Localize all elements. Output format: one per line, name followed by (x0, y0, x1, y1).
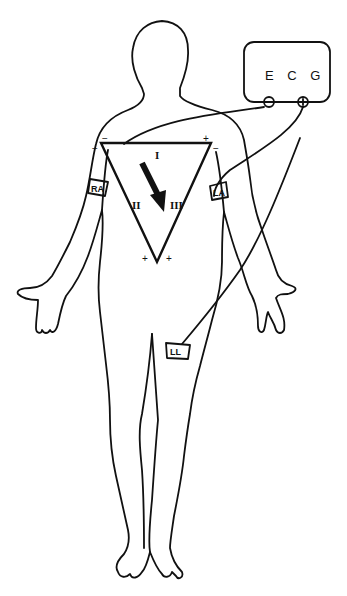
svg-text:RA: RA (91, 184, 104, 194)
svg-text:LL: LL (170, 347, 181, 357)
lead-ii-label: II (132, 199, 141, 211)
cardiac-axis-arrow-icon (142, 163, 166, 212)
electrode-la: LA (210, 182, 228, 200)
sign-bottom-right: + (166, 253, 172, 264)
ecg-machine: E C G (244, 42, 330, 107)
electrode-ll: LL (166, 343, 190, 359)
sign-top-right-b: − (213, 143, 219, 154)
ecg-diagram: E C G I II III − − + − + + RA LA LL (0, 0, 347, 596)
svg-text:LA: LA (213, 188, 225, 198)
sign-top-left-a: − (102, 133, 108, 144)
lead-iii-label: III (170, 199, 183, 211)
electrode-ra: RA (88, 179, 108, 196)
sign-top-left-b: − (92, 143, 98, 154)
sign-bottom-left: + (142, 253, 148, 264)
sign-top-right-a: + (203, 133, 209, 144)
lead-i-label: I (155, 149, 159, 161)
ecg-label: E C G (265, 68, 325, 83)
human-body-outline (18, 21, 296, 578)
